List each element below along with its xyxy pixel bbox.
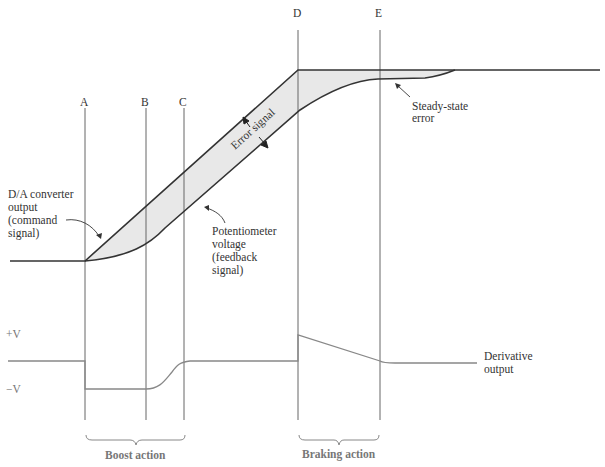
derivative-output-label: Derivative	[484, 350, 533, 362]
boost-action-brace	[86, 435, 185, 445]
svg-text:(command: (command	[8, 214, 57, 227]
feedback-signal-annotation: Potentiometer voltage (feedback signal)	[204, 205, 277, 277]
plus-v-label: +V	[6, 328, 21, 340]
svg-text:error: error	[412, 112, 435, 124]
minus-v-label: −V	[6, 383, 21, 395]
derivative-output-label-2: output	[484, 363, 514, 376]
svg-text:D/A converter: D/A converter	[8, 188, 74, 200]
svg-text:signal): signal)	[8, 227, 39, 240]
svg-text:voltage: voltage	[212, 238, 246, 251]
boost-action-label: Boost action	[105, 449, 166, 461]
marker-label-b: B	[141, 96, 149, 108]
servo-derivative-diagram: A B C D E Error signal D/A converter out…	[0, 0, 605, 467]
braking-action-label: Braking action	[302, 448, 376, 461]
command-signal-annotation: D/A converter output (command signal)	[8, 188, 102, 240]
marker-label-e: E	[375, 7, 382, 19]
steady-state-error-annotation: Steady-state error	[395, 83, 468, 124]
marker-label-d: D	[293, 7, 301, 19]
derivative-output-line	[8, 335, 477, 389]
svg-text:signal): signal)	[212, 264, 243, 277]
svg-text:Potentiometer: Potentiometer	[212, 225, 277, 237]
marker-label-c: C	[179, 96, 187, 108]
marker-label-a: A	[80, 96, 89, 108]
svg-text:output: output	[8, 201, 38, 214]
svg-text:(feedback: (feedback	[212, 251, 258, 264]
braking-action-brace	[299, 435, 379, 445]
